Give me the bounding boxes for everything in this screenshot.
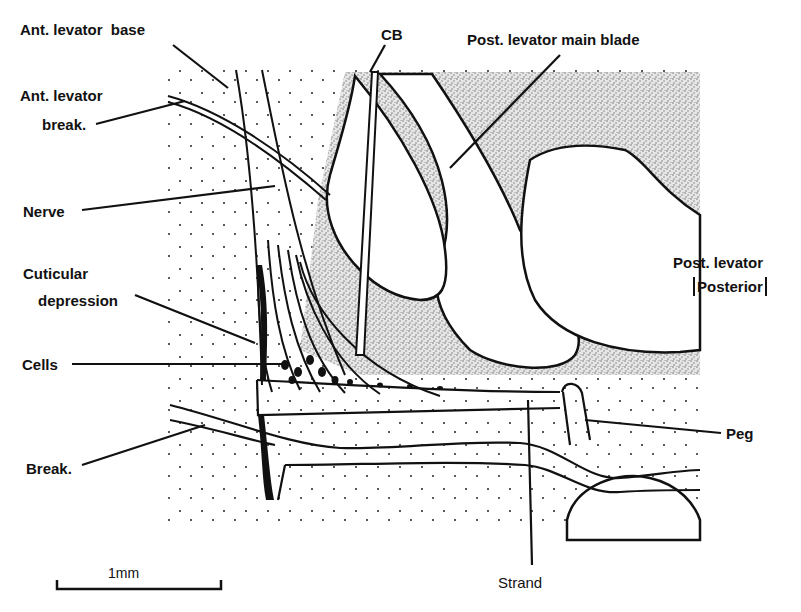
label-nerve: Nerve: [23, 204, 65, 219]
label-peg: Peg: [726, 426, 754, 441]
label-break: Break.: [26, 461, 72, 476]
label-post-levator-main-blade: Post. levator main blade: [467, 32, 640, 47]
label-cuticular: Cuticular: [23, 266, 88, 281]
diagram-drawing: [0, 0, 801, 612]
scale-bar-label: 1mm: [108, 566, 139, 580]
label-cb: CB: [381, 27, 403, 42]
label-depression: depression: [38, 293, 118, 308]
label-ant-levator-base: Ant. levator base: [20, 22, 145, 37]
label-ant-levator-break-2: break.: [42, 117, 86, 132]
label-posterior-text: Posterior: [693, 277, 767, 296]
label-ant-levator-break-1: Ant. levator: [20, 88, 103, 103]
label-post-levator: Post. levator: [673, 255, 763, 270]
anatomical-diagram: Ant. levator base Ant. levator break. Ne…: [0, 0, 801, 612]
label-posterior: Posterior: [693, 279, 767, 294]
scale-bar: [57, 580, 221, 589]
label-strand: Strand: [498, 575, 542, 590]
label-ant-levator-prefix: Ant. levator: [20, 21, 103, 38]
label-base: base: [111, 21, 145, 38]
label-cells: Cells: [22, 357, 58, 372]
